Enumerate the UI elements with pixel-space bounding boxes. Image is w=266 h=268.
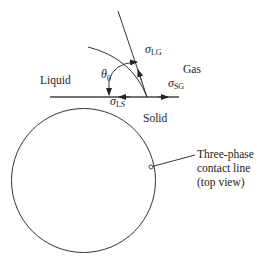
- sigma-ls-label: σLS: [110, 94, 125, 109]
- contact-angle-diagram: Liquid Gas Solid θ0 σLG σSG σLS Three-ph…: [0, 0, 266, 268]
- solid-label: Solid: [143, 112, 168, 124]
- sigma-sg-label: σSG: [168, 76, 184, 91]
- callout-line-2: contact line: [197, 162, 250, 174]
- tangent-line: [118, 11, 147, 97]
- callout-line-1: Three-phase: [197, 148, 254, 161]
- sigma-sg-subscript: SG: [174, 82, 184, 91]
- sigma-lg-subscript: LG: [151, 48, 162, 57]
- liquid-label: Liquid: [40, 74, 71, 87]
- callout-leader-line: [153, 155, 195, 166]
- theta-label: θ0: [101, 67, 111, 83]
- contact-angle-arc: [109, 62, 136, 80]
- theta-subscript: 0: [107, 74, 111, 83]
- contact-point-marker: [149, 165, 153, 169]
- sigma-ls-subscript: LS: [116, 100, 125, 109]
- droplet-top-view-circle: [12, 109, 156, 253]
- contact-angle-arc-arrow-top: [130, 62, 137, 63]
- callout-line-3: (top view): [197, 176, 245, 189]
- gas-label: Gas: [183, 63, 201, 75]
- sigma-lg-label: σLG: [145, 42, 162, 57]
